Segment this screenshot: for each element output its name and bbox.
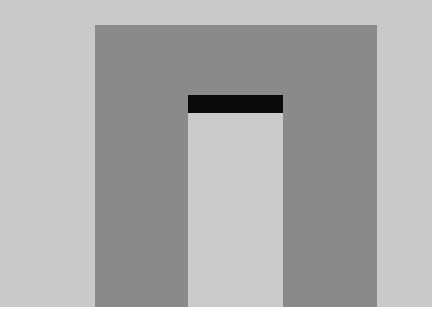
black-bar bbox=[188, 95, 283, 113]
inner-doorway bbox=[188, 113, 283, 307]
